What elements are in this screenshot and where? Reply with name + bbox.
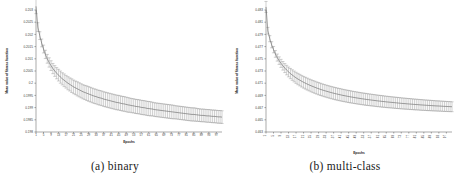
svg-text:49: 49 (125, 133, 129, 137)
svg-text:0.2025: 0.2025 (24, 20, 34, 24)
svg-text:0.202: 0.202 (25, 33, 33, 37)
svg-text:13: 13 (57, 133, 61, 137)
svg-text:25: 25 (79, 133, 83, 137)
chart-b-plot-area: 0.4830.4810.4790.4770.4750.4730.4710.469… (230, 0, 460, 162)
svg-text:21: 21 (72, 133, 76, 137)
svg-text:57: 57 (368, 135, 372, 139)
figure-panel-a: 0.2030.20250.2020.20150.2010.20050.20.19… (0, 0, 230, 194)
svg-text:0.463: 0.463 (255, 130, 263, 134)
svg-text:0.467: 0.467 (255, 106, 263, 110)
svg-text:1: 1 (263, 135, 267, 137)
svg-text:17: 17 (293, 135, 297, 139)
svg-text:73: 73 (398, 135, 402, 139)
svg-text:97: 97 (443, 135, 447, 139)
svg-text:0.481: 0.481 (255, 20, 263, 24)
svg-text:85: 85 (192, 133, 196, 137)
svg-text:81: 81 (413, 135, 417, 139)
svg-text:9: 9 (278, 135, 282, 137)
svg-text:0.469: 0.469 (255, 94, 263, 98)
svg-text:89: 89 (200, 133, 204, 137)
svg-text:0.473: 0.473 (255, 69, 263, 73)
svg-text:73: 73 (170, 133, 174, 137)
svg-text:33: 33 (323, 135, 327, 139)
svg-text:21: 21 (301, 135, 305, 139)
svg-text:77: 77 (406, 135, 410, 139)
svg-text:33: 33 (95, 133, 99, 137)
svg-text:0.1985: 0.1985 (24, 118, 34, 122)
svg-text:69: 69 (391, 135, 395, 139)
svg-text:Mean value of fitness function: Mean value of fitness function (235, 48, 239, 94)
svg-text:61: 61 (147, 133, 151, 137)
svg-text:37: 37 (331, 135, 335, 139)
svg-text:0.465: 0.465 (255, 118, 263, 122)
svg-text:41: 41 (110, 133, 114, 137)
svg-text:0.477: 0.477 (255, 45, 263, 49)
svg-text:Epochs: Epochs (123, 140, 135, 144)
svg-text:0.2: 0.2 (29, 81, 34, 85)
svg-text:1: 1 (35, 133, 37, 137)
svg-text:85: 85 (421, 135, 425, 139)
svg-text:49: 49 (353, 135, 357, 139)
chart-a-svg: 0.2030.20250.2020.20150.2010.20050.20.19… (0, 0, 230, 162)
svg-text:57: 57 (140, 133, 144, 137)
svg-text:0.203: 0.203 (25, 8, 33, 12)
svg-text:89: 89 (428, 135, 432, 139)
chart-b-svg: 0.4830.4810.4790.4770.4750.4730.4710.469… (230, 0, 460, 162)
svg-text:0.2005: 0.2005 (24, 69, 34, 73)
svg-text:53: 53 (132, 133, 136, 137)
svg-text:65: 65 (383, 135, 387, 139)
svg-text:0.201: 0.201 (25, 57, 33, 61)
svg-text:65: 65 (155, 133, 159, 137)
svg-text:0.471: 0.471 (255, 81, 263, 85)
svg-text:0.2015: 0.2015 (24, 45, 34, 49)
svg-text:Mean value of fitness function: Mean value of fitness function (5, 48, 9, 94)
svg-text:61: 61 (376, 135, 380, 139)
svg-text:0.199: 0.199 (25, 106, 33, 110)
svg-text:41: 41 (338, 135, 342, 139)
chart-a-plot-area: 0.2030.20250.2020.20150.2010.20050.20.19… (0, 0, 230, 162)
svg-text:45: 45 (117, 133, 121, 137)
svg-text:81: 81 (185, 133, 189, 137)
svg-text:0.475: 0.475 (255, 57, 263, 61)
svg-text:29: 29 (87, 133, 91, 137)
svg-text:77: 77 (177, 133, 181, 137)
svg-text:53: 53 (361, 135, 365, 139)
svg-text:Epochs: Epochs (353, 151, 365, 155)
svg-text:5: 5 (271, 135, 275, 137)
svg-text:37: 37 (102, 133, 106, 137)
svg-text:0.1995: 0.1995 (24, 94, 34, 98)
svg-text:0.198: 0.198 (25, 130, 33, 134)
svg-text:45: 45 (346, 135, 350, 139)
svg-text:25: 25 (308, 135, 312, 139)
svg-text:9: 9 (50, 133, 52, 137)
svg-text:5: 5 (43, 133, 45, 137)
figure-panel-b: 0.4830.4810.4790.4770.4750.4730.4710.469… (230, 0, 460, 194)
svg-text:93: 93 (207, 133, 211, 137)
svg-text:0.483: 0.483 (255, 8, 263, 12)
svg-text:13: 13 (286, 135, 290, 139)
svg-text:17: 17 (64, 133, 68, 137)
svg-text:0.479: 0.479 (255, 33, 263, 37)
svg-text:69: 69 (162, 133, 166, 137)
figure-container: 0.2030.20250.2020.20150.2010.20050.20.19… (0, 0, 460, 194)
svg-text:97: 97 (215, 133, 219, 137)
svg-text:93: 93 (436, 135, 440, 139)
svg-text:29: 29 (316, 135, 320, 139)
